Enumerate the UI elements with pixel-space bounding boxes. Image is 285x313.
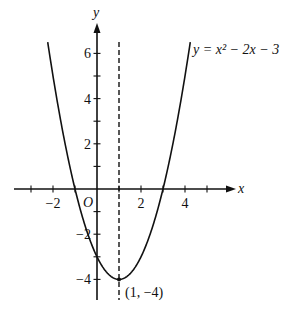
y-tick-label: −4 — [76, 272, 91, 287]
vertex-point — [117, 277, 121, 281]
parabola-plot: −224642−2−4 (1, −4) y = x² − 2x − 3 x y … — [0, 0, 285, 313]
origin-label: O — [83, 195, 93, 210]
vertex-label: (1, −4) — [125, 285, 164, 301]
y-tick-label: 6 — [84, 46, 91, 61]
x-axis-arrow-icon — [226, 186, 236, 193]
y-axis-label: y — [91, 5, 100, 20]
x-tick-label: 4 — [182, 196, 189, 211]
equation-label: y = x² − 2x − 3 — [191, 42, 279, 57]
x-axis-label: x — [237, 181, 245, 196]
axes — [14, 23, 236, 300]
tick-labels: −224642−2−4 — [46, 46, 189, 287]
y-tick-label: 2 — [84, 137, 91, 152]
y-tick-label: 4 — [84, 92, 91, 107]
y-axis-arrow-icon — [94, 23, 101, 33]
x-tick-label: 2 — [138, 196, 145, 211]
x-tick-label: −2 — [46, 196, 61, 211]
